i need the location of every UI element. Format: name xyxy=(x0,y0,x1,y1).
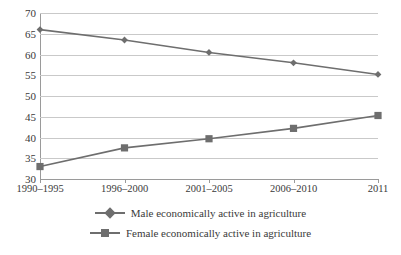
y-tick-label-45: 45 xyxy=(2,111,36,122)
y-tick-label-50: 50 xyxy=(2,91,36,102)
data-point-s0-4 xyxy=(375,71,382,78)
x-tick-label-3: 2006–2010 xyxy=(270,182,317,195)
data-point-s0-3 xyxy=(290,59,297,66)
legend-label-0: Male economically active in agriculture xyxy=(131,207,306,220)
y-tick-label-55: 55 xyxy=(2,70,36,81)
x-tick-label-2: 2001–2005 xyxy=(185,182,232,195)
data-point-s0-2 xyxy=(206,49,213,56)
x-tick-label-1: 1996–2000 xyxy=(101,182,148,195)
x-tick-mark-0 xyxy=(40,179,41,183)
diamond-marker-icon xyxy=(95,206,125,220)
y-tick-label-60: 60 xyxy=(2,49,36,60)
x-tick-mark-2 xyxy=(209,179,210,183)
legend-label-1: Female economically active in agricultur… xyxy=(126,227,311,240)
legend-item-0[interactable]: Male economically active in agriculture xyxy=(0,203,401,223)
data-point-s0-0 xyxy=(37,26,44,33)
data-point-s1-0 xyxy=(36,163,43,170)
data-point-s0-1 xyxy=(121,37,128,44)
chart-legend: Male economically active in agricultureF… xyxy=(0,203,401,243)
y-tick-label-35: 35 xyxy=(2,153,36,164)
square-marker-icon xyxy=(90,226,120,240)
y-axis-tick-labels: 706560555045403530 xyxy=(0,13,36,179)
y-tick-label-70: 70 xyxy=(2,8,36,19)
legend-key-marker xyxy=(101,229,109,237)
data-point-s1-3 xyxy=(290,125,297,132)
line-chart: 706560555045403530 1990–19951996–2000200… xyxy=(0,0,401,255)
x-axis-tick-labels: 1990–19951996–20002001–20052006–20102011 xyxy=(40,182,378,198)
x-tick-mark-3 xyxy=(294,179,295,183)
series-layer xyxy=(40,13,378,179)
y-tick-label-40: 40 xyxy=(2,132,36,143)
data-point-s1-4 xyxy=(374,112,381,119)
legend-item-1[interactable]: Female economically active in agricultur… xyxy=(0,223,401,243)
x-tick-mark-1 xyxy=(125,179,126,183)
x-tick-label-4: 2011 xyxy=(368,182,389,195)
y-tick-label-65: 65 xyxy=(2,28,36,39)
data-point-s1-2 xyxy=(205,135,212,142)
legend-key-marker xyxy=(104,207,115,218)
x-tick-mark-4 xyxy=(378,179,379,183)
plot-area xyxy=(40,13,378,179)
data-point-s1-1 xyxy=(121,144,128,151)
x-tick-label-0: 1990–1995 xyxy=(16,182,63,195)
